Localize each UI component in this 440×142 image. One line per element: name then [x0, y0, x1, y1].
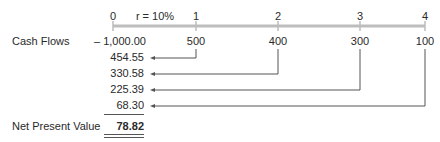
arrowhead-icon — [150, 72, 155, 76]
arrowhead-icon — [150, 56, 155, 60]
discount-arrow-1 — [153, 49, 196, 58]
present-value-1: 454.55 — [110, 51, 144, 63]
period-label-2: 2 — [275, 10, 281, 22]
npv-value: 78.82 — [116, 120, 144, 132]
present-value-4: 68.30 — [116, 99, 144, 111]
discount-arrow-3 — [153, 49, 360, 90]
cash-flow-3: 300 — [351, 35, 369, 47]
period-label-0: 0 — [110, 10, 116, 22]
period-label-3: 3 — [357, 10, 363, 22]
cash-flow-1: 500 — [187, 35, 205, 47]
cash-flow-2: 400 — [269, 35, 287, 47]
rate-label: r = 10% — [136, 10, 174, 22]
cash-flow-0: – 1,000.00 — [94, 35, 146, 47]
npv-label: Net Present Value — [12, 120, 100, 132]
present-value-2: 330.58 — [110, 67, 144, 79]
cash-flows-label: Cash Flows — [12, 35, 69, 47]
period-label-4: 4 — [422, 10, 428, 22]
arrowhead-icon — [150, 88, 155, 92]
discount-arrow-2 — [153, 49, 278, 74]
period-label-1: 1 — [193, 10, 199, 22]
arrowhead-icon — [150, 104, 155, 108]
cash-flow-4: 100 — [416, 35, 434, 47]
present-value-3: 225.39 — [110, 83, 144, 95]
